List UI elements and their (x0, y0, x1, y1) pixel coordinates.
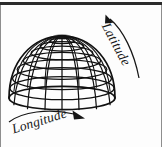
figure-container: Latitude Longitude (0, 0, 162, 147)
north-pole-convergence-icon (53, 34, 72, 38)
dome-grid-group (9, 34, 115, 109)
longitude-arrow-head (73, 111, 86, 120)
meridians-group (9, 36, 115, 110)
